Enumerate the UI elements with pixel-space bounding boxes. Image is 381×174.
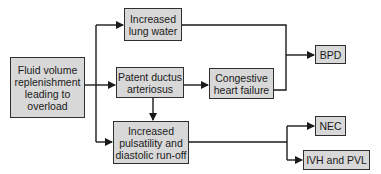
node-fluid-overload: Fluid volume replenishment leading to ov…: [10, 57, 85, 118]
node-increased-lung-water: Increased lung water: [124, 8, 182, 41]
node-patent-ductus-arteriosus: Patent ductus arteriosus: [116, 67, 184, 98]
node-congestive-heart-failure: Congestive heart failure: [209, 68, 274, 99]
node-bpd: BPD: [315, 45, 346, 64]
node-increased-pulsatility: Increased pulsatility and diastolic run-…: [113, 121, 189, 164]
node-nec: NEC: [315, 116, 346, 136]
node-ivh-pvl: IVH and PVL: [303, 150, 370, 170]
